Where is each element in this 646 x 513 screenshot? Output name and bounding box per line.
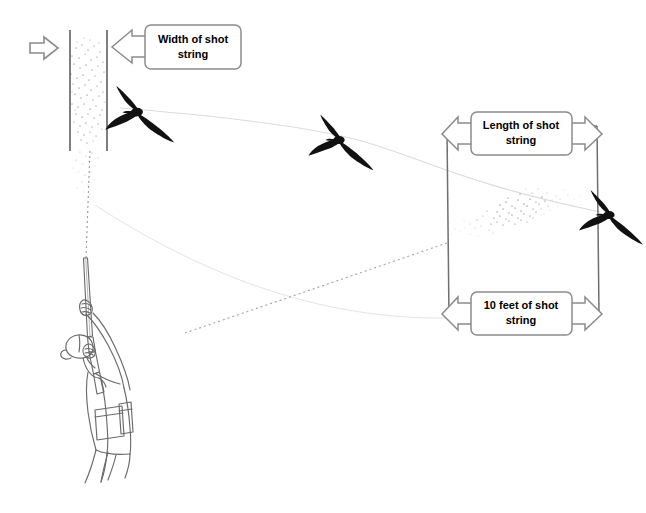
callout-line-1: Width of shot [158, 33, 228, 45]
bird-near [101, 80, 174, 149]
callout-line-2: string [506, 314, 537, 326]
vest [87, 372, 134, 454]
callout-width-of-shot-string: Width of shot string [112, 25, 241, 69]
shotgun-barrel [84, 258, 105, 394]
diagram-canvas: Width of shot string [0, 0, 646, 513]
callout-length-of-shot-string: Length of shot string [442, 112, 602, 155]
callout-arrow-left [112, 30, 146, 63]
shot-pattern-stipple [71, 38, 106, 255]
shot-string-stipple [451, 189, 587, 237]
bird-far [576, 187, 643, 250]
shot-string-diagram: Width of shot string [0, 0, 646, 513]
bird-mid [306, 111, 374, 175]
callout-line-1: Length of shot [483, 119, 560, 131]
muzzle-sight-line [86, 150, 90, 258]
callout-line-1: 10 feet of shot [484, 299, 559, 311]
incoming-direction-arrow [30, 37, 58, 59]
callout-line-2: string [506, 134, 537, 146]
shot-string-box-left-edge [447, 130, 449, 318]
legs [85, 450, 130, 483]
shot-string-sight-line [185, 243, 447, 333]
callout-arrow-left [442, 297, 472, 330]
hunter-with-shotgun [61, 258, 133, 483]
callout-ten-feet-of-shot-string: 10 feet of shot string [442, 292, 602, 335]
callout-line-2: string [178, 48, 209, 60]
callout-arrow-right [571, 297, 602, 330]
